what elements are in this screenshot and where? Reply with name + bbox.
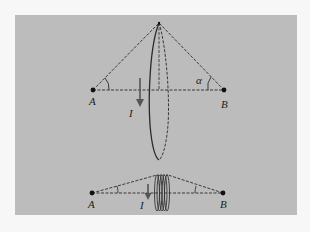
current-loop-front bbox=[149, 23, 159, 160]
angle-arc-a-bottom bbox=[117, 186, 118, 193]
label-current-top: I bbox=[128, 107, 134, 119]
angle-arc-a bbox=[105, 78, 109, 90]
label-alpha: α bbox=[196, 74, 202, 86]
line-b-to-apex bbox=[159, 23, 224, 90]
point-b-bottom bbox=[221, 191, 226, 196]
label-a-top: A bbox=[88, 95, 96, 107]
label-current-bottom: I bbox=[139, 199, 145, 211]
angle-arc-b bbox=[208, 77, 211, 90]
current-loop-back bbox=[159, 23, 169, 160]
diagram: A B I α A B I bbox=[0, 0, 310, 232]
point-b-top bbox=[222, 88, 227, 93]
line-a-to-apex bbox=[93, 23, 159, 90]
point-a-top bbox=[91, 88, 96, 93]
current-arrow-bottom-icon bbox=[145, 184, 152, 200]
angle-arc-b-bottom bbox=[195, 186, 196, 193]
apex-point bbox=[158, 22, 160, 24]
current-arrow-icon bbox=[136, 78, 144, 107]
coil-icon bbox=[155, 175, 170, 211]
label-a-bottom: A bbox=[87, 198, 95, 210]
label-b-top: B bbox=[221, 98, 228, 110]
top-diagram bbox=[93, 23, 224, 160]
label-b-bottom: B bbox=[220, 198, 227, 210]
point-a-bottom bbox=[90, 191, 95, 196]
